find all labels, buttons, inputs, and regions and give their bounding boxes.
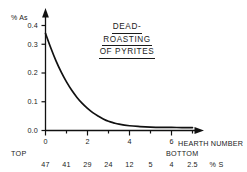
y-tick-label-0.0: 0.0	[12, 127, 38, 134]
x-tick-label-6: 6	[165, 138, 179, 145]
y-tick-label-0.4: 0.4	[12, 22, 38, 29]
sulfur-value-2: 29	[80, 161, 96, 168]
y-tick-label-0.2: 0.2	[12, 69, 38, 76]
y-axis-title: % As	[11, 14, 28, 21]
secondary-axis-start-label: TOP	[11, 150, 27, 157]
x-axis-ticks	[46, 131, 193, 136]
y-tick-label-0.1: 0.1	[12, 98, 38, 105]
chart-title-line-3: OF PYRITES	[84, 47, 170, 56]
sulfur-value-7: 2.5	[185, 161, 201, 168]
chart-title: DEAD- ROASTING OF PYRITES	[84, 22, 170, 60]
sulfur-value-1: 41	[59, 161, 75, 168]
sulfur-value-0: 47	[38, 161, 54, 168]
chart-figure: % As 0.4 0.3 0.2 0.1 0.0 0 2 4 6 HEARTH …	[0, 0, 247, 172]
x-tick-label-2: 2	[81, 138, 95, 145]
y-tick-label-0.3: 0.3	[12, 41, 38, 48]
x-axis-title: HEARTH NUMBER	[178, 140, 243, 147]
sulfur-value-5: 5	[143, 161, 159, 168]
secondary-axis-end-label: BOTTOM	[166, 150, 198, 157]
y-axis	[42, 8, 49, 131]
chart-title-line-2: ROASTING	[84, 35, 170, 44]
sulfur-value-6: 4	[164, 161, 180, 168]
chart-title-line-1: DEAD-	[84, 22, 170, 31]
x-tick-label-4: 4	[123, 138, 137, 145]
sulfur-value-3: 24	[101, 161, 117, 168]
sulfur-unit-label: % S	[206, 161, 228, 168]
sulfur-value-4: 12	[122, 161, 138, 168]
x-tick-label-0: 0	[39, 138, 53, 145]
